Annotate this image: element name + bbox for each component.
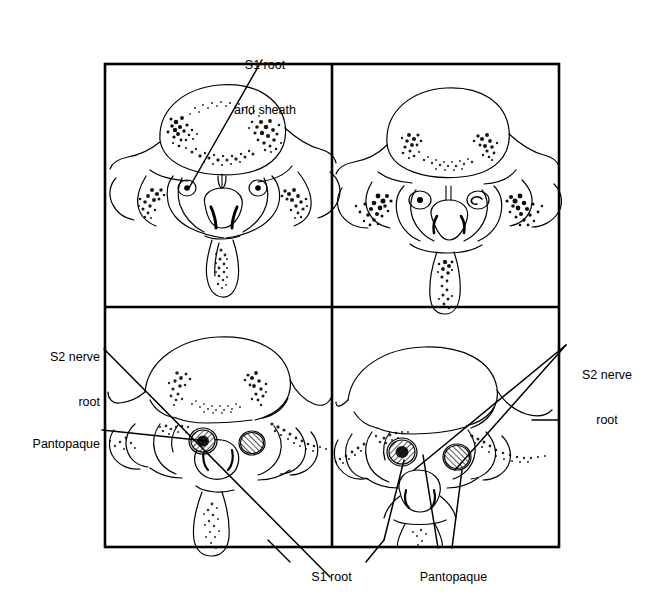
label-s2-nerve-root-right: S2 nerve root: [568, 338, 646, 443]
label-s2-nerve-root-right-line1: S2 nerve: [568, 368, 646, 383]
panel-bottom-right: [334, 347, 552, 547]
label-s2-nerve-root-right-line2: root: [568, 413, 646, 428]
panel-top-right: [336, 88, 561, 314]
label-s2-nerve-root-left-line2: root: [0, 395, 100, 410]
leader-s2-nerve-root-left-a: [104, 349, 330, 577]
label-pantopaque-left: Pantopaque: [0, 422, 100, 452]
label-s1-root-and-sheath: S1 root and sheath: [210, 28, 320, 133]
leader-s1-root-bottom-left: [268, 540, 290, 562]
leader-lines: [102, 60, 566, 577]
medical-figure: [0, 0, 646, 603]
panel-bottom-left: [108, 337, 331, 556]
stipple-top-right: [355, 133, 543, 309]
leader-pantopaque-bottom-b: [452, 470, 462, 548]
leader-pantopaque-left: [102, 430, 207, 441]
label-s1-root-and-sheath-line2: and sheath: [210, 103, 320, 118]
label-pantopaque-left-text: Pantopaque: [33, 437, 100, 451]
label-s1-root-bottom: S1 root: [293, 555, 363, 585]
leader-s1-root-bottom-right: [366, 540, 384, 562]
label-s1-root-bottom-text: S1 root: [311, 570, 351, 584]
stipple-bottom-left: [109, 371, 327, 549]
label-s2-nerve-root-left: S2 nerve root: [0, 320, 100, 425]
label-pantopaque-bottom-text: Pantopaque: [420, 570, 487, 584]
label-pantopaque-bottom: Pantopaque: [405, 555, 495, 585]
label-s2-nerve-root-left-line1: S2 nerve: [0, 350, 100, 365]
leader-s2-nerve-root-right-a: [414, 345, 566, 470]
label-s1-root-and-sheath-line1: S1 root: [210, 58, 320, 73]
leader-s1-root-to-panel: [384, 460, 404, 540]
